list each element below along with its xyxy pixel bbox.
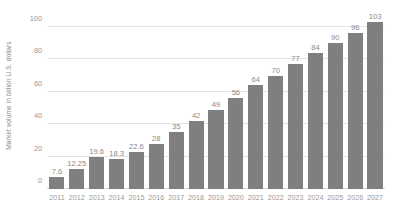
- bar[interactable]: [268, 76, 283, 189]
- bar-value-label: 64: [252, 75, 260, 84]
- bar[interactable]: [308, 53, 323, 189]
- bar-value-label: 12.25: [67, 159, 86, 168]
- bar-value-label: 103: [369, 12, 382, 21]
- bar[interactable]: [169, 132, 184, 189]
- y-axis-tick-label: 40: [34, 111, 42, 120]
- x-axis-tick-label: 2019: [208, 193, 224, 202]
- bar[interactable]: [49, 177, 64, 189]
- bar-group[interactable]: 842024: [305, 27, 325, 189]
- bar-group[interactable]: 7.62011: [47, 27, 67, 189]
- bar-chart-figure: Market volume in billion U.S. dollars 02…: [0, 0, 408, 218]
- bar-group[interactable]: 12.252012: [67, 27, 87, 189]
- bars-layer: 7.6201112.25201219.6201318.3201422.62015…: [47, 27, 385, 189]
- bar-group[interactable]: 18.32014: [107, 27, 127, 189]
- bar[interactable]: [149, 144, 164, 189]
- bar[interactable]: [189, 121, 204, 189]
- bar[interactable]: [208, 110, 223, 189]
- bar-value-label: 90: [331, 33, 339, 42]
- x-axis-tick-label: 2015: [128, 193, 144, 202]
- bar-group[interactable]: 282016: [146, 27, 166, 189]
- x-axis-tick-label: 2021: [248, 193, 264, 202]
- bar-group[interactable]: 492019: [206, 27, 226, 189]
- bar-group[interactable]: 22.62015: [127, 27, 147, 189]
- x-axis-tick-label: 2014: [109, 193, 125, 202]
- bar-group[interactable]: 1032027: [365, 27, 385, 189]
- x-axis-tick-label: 2027: [367, 193, 383, 202]
- x-axis-tick-label: 2017: [168, 193, 184, 202]
- bar[interactable]: [129, 152, 144, 189]
- bar-value-label: 19.6: [89, 147, 104, 156]
- bar-value-label: 42: [192, 111, 200, 120]
- y-axis-title-text: Market volume in billion U.S. dollars: [5, 41, 12, 150]
- bar[interactable]: [367, 22, 382, 189]
- bar-value-label: 22.6: [129, 142, 144, 151]
- bar-group[interactable]: 962026: [345, 27, 365, 189]
- bar-value-label: 28: [152, 134, 160, 143]
- bar[interactable]: [69, 169, 84, 189]
- x-axis-tick-label: 2025: [327, 193, 343, 202]
- bar-group[interactable]: 702022: [266, 27, 286, 189]
- bar-value-label: 77: [291, 54, 299, 63]
- bar-group[interactable]: 422018: [186, 27, 206, 189]
- x-axis-tick-label: 2024: [307, 193, 323, 202]
- bar-value-label: 18.3: [109, 149, 124, 158]
- bar[interactable]: [348, 33, 363, 189]
- bar[interactable]: [228, 98, 243, 189]
- x-axis-tick-label: 2011: [49, 193, 64, 202]
- y-axis-tick-label: 100: [30, 14, 42, 23]
- bar-value-label: 7.6: [52, 167, 63, 176]
- x-axis-tick-label: 2022: [268, 193, 284, 202]
- x-axis-tick-label: 2023: [288, 193, 304, 202]
- bar-value-label: 96: [351, 23, 359, 32]
- y-axis-tick-label: 0: [38, 176, 42, 185]
- y-axis-tick-label: 60: [34, 78, 42, 87]
- x-axis-tick-label: 2016: [148, 193, 164, 202]
- y-axis-tick-label: 80: [34, 46, 42, 55]
- bar-value-label: 70: [271, 66, 279, 75]
- bar-group[interactable]: 642021: [246, 27, 266, 189]
- x-axis-tick-label: 2012: [69, 193, 85, 202]
- x-axis-tick-label: 2026: [347, 193, 363, 202]
- bar[interactable]: [89, 157, 104, 189]
- bar-group[interactable]: 352017: [166, 27, 186, 189]
- bar-group[interactable]: 562020: [226, 27, 246, 189]
- bar-group[interactable]: 902025: [325, 27, 345, 189]
- plot-area: 020406080100 7.6201112.25201219.6201318.…: [47, 27, 385, 189]
- bar[interactable]: [288, 64, 303, 189]
- bar-value-label: 49: [212, 100, 220, 109]
- bar[interactable]: [248, 85, 263, 189]
- bar-group[interactable]: 772023: [286, 27, 306, 189]
- bar[interactable]: [328, 43, 343, 189]
- bar-group[interactable]: 19.62013: [87, 27, 107, 189]
- bar-value-label: 35: [172, 122, 180, 131]
- bar[interactable]: [109, 159, 124, 189]
- y-axis-tick-label: 20: [34, 143, 42, 152]
- y-axis-title: Market volume in billion U.S. dollars: [0, 0, 16, 190]
- x-axis-tick-label: 2013: [89, 193, 105, 202]
- bar-value-label: 56: [232, 88, 240, 97]
- x-axis-tick-label: 2018: [188, 193, 204, 202]
- bar-value-label: 84: [311, 43, 319, 52]
- x-axis-tick-label: 2020: [228, 193, 244, 202]
